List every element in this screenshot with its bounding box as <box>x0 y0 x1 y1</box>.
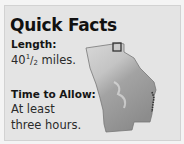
georgia-state-shape <box>86 43 156 132</box>
length-label: Length: <box>11 39 57 50</box>
length-value: 401/2 miles. <box>11 53 76 69</box>
quick-facts-title: Quick Facts <box>10 17 117 34</box>
length-whole: 40 <box>11 53 26 67</box>
length-unit: miles. <box>38 53 76 67</box>
georgia-map-icon <box>84 42 176 136</box>
time-to-allow-value: At least three hours. <box>11 102 86 133</box>
